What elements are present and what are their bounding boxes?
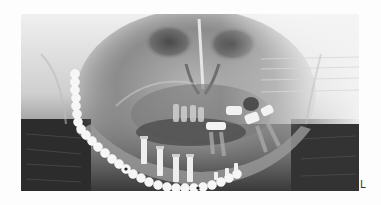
panoramic-xray <box>21 14 359 191</box>
side-marker-label: L <box>360 180 366 190</box>
xray-render <box>21 14 359 191</box>
image-canvas: L <box>0 0 381 205</box>
